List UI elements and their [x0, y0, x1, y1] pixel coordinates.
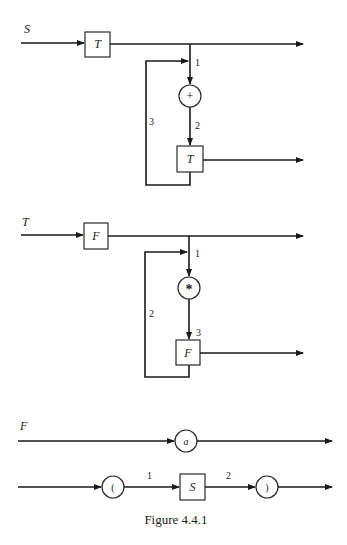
edge-label-3: 3: [196, 327, 201, 338]
nonterminal-label-T: T: [22, 215, 30, 229]
circle-close-paren-label: ): [265, 482, 268, 494]
diagram-S: S T 1 + 2 3 T: [21, 22, 303, 185]
diagram-T: T F 1 * 3 2 F: [21, 215, 303, 377]
circle-star-label: *: [186, 282, 193, 297]
nonterminal-label-F: F: [19, 419, 28, 433]
edge-label-3: 3: [149, 116, 154, 127]
nonterminal-label-S: S: [24, 22, 30, 36]
diagram-F: F a ( 1 S 2 ): [18, 419, 332, 500]
box-S-label: S: [190, 480, 196, 494]
figure-caption: Figure 4.4.1: [144, 512, 207, 527]
edge-label-2: 2: [149, 308, 154, 319]
edge-label-1: 1: [195, 57, 200, 68]
syntax-diagram-canvas: S T 1 + 2 3 T T F 1 * 3 2 F: [0, 0, 347, 545]
box-F-label: F: [91, 229, 100, 243]
edge-label-1: 1: [195, 248, 200, 259]
circle-a-label: a: [184, 436, 189, 447]
circle-plus-label: +: [187, 89, 194, 103]
edge-label-2: 2: [226, 470, 231, 481]
edge-label-2: 2: [195, 120, 200, 131]
box-F-loop-label: F: [183, 346, 192, 360]
edge-label-1: 1: [147, 470, 152, 481]
